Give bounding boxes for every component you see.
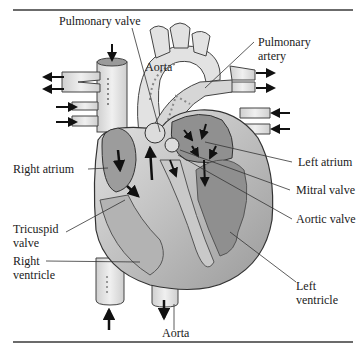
label-left-ventricle-2: ventricle <box>296 294 338 307</box>
heart-body <box>94 110 272 290</box>
label-pulmonary-artery-1: Pulmonary <box>258 36 311 49</box>
label-left-ventricle-1: Left <box>296 280 316 293</box>
label-pulmonary-artery-2: artery <box>258 50 286 63</box>
label-tricuspid-valve-2: valve <box>13 237 39 250</box>
label-right-ventricle-2: ventricle <box>13 269 55 282</box>
label-pulmonary-valve: Pulmonary valve <box>59 15 141 28</box>
aortic-valve-shape <box>165 138 179 152</box>
label-aorta-bottom: Aorta <box>162 327 189 340</box>
label-aortic-valve: Aortic valve <box>296 213 356 226</box>
label-right-atrium: Right atrium <box>13 163 74 176</box>
label-left-atrium: Left atrium <box>298 156 352 169</box>
pulmonary-valve-shape <box>145 123 165 143</box>
label-tricuspid-valve-1: Tricuspid <box>13 223 59 236</box>
superior-vena-cava <box>97 58 127 132</box>
label-aorta-top: Aorta <box>145 61 172 74</box>
left-pulmonary-vessels <box>44 72 100 126</box>
label-right-ventricle-1: Right <box>13 255 40 268</box>
label-mitral-valve: Mitral valve <box>296 184 355 197</box>
